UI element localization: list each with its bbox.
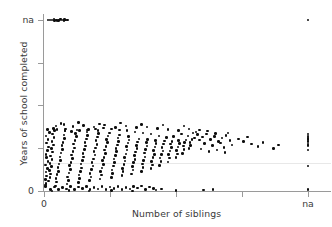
- data-point: [162, 150, 165, 153]
- data-point: [198, 139, 201, 142]
- data-point: [136, 147, 139, 150]
- data-point: [87, 128, 90, 131]
- data-point: [189, 141, 192, 144]
- data-point: [183, 125, 186, 128]
- data-point: [80, 167, 83, 170]
- data-point: [48, 131, 51, 134]
- data-point: [99, 178, 102, 181]
- data-point: [57, 166, 60, 169]
- data-point: [64, 128, 67, 131]
- data-point: [63, 19, 66, 22]
- data-point: [158, 164, 161, 167]
- data-point: [55, 19, 58, 22]
- data-point: [61, 19, 64, 22]
- data-point: [114, 154, 117, 157]
- data-point: [171, 140, 174, 143]
- data-point: [167, 153, 170, 156]
- data-point: [170, 146, 173, 149]
- data-point: [48, 169, 51, 172]
- data-point: [187, 135, 190, 138]
- data-point: [105, 145, 108, 148]
- data-point: [165, 136, 168, 139]
- x-tick-2: [176, 192, 177, 197]
- data-point: [74, 132, 77, 135]
- data-point: [67, 179, 70, 182]
- data-point: [56, 173, 59, 176]
- data-point: [63, 123, 66, 126]
- data-point: [103, 149, 106, 152]
- data-point: [69, 168, 72, 171]
- data-point: [195, 131, 198, 134]
- data-point: [45, 156, 48, 159]
- data-point: [84, 141, 87, 144]
- data-point: [152, 156, 155, 159]
- data-point: [63, 18, 66, 21]
- data-point: [178, 142, 181, 145]
- data-point: [224, 151, 227, 154]
- data-point: [133, 154, 136, 157]
- data-point: [121, 174, 124, 177]
- data-point: [60, 122, 63, 125]
- data-point: [98, 123, 101, 126]
- data-point: [63, 134, 66, 137]
- data-point: [44, 184, 47, 187]
- data-point: [49, 155, 52, 158]
- data-point: [110, 128, 113, 131]
- data-point: [81, 159, 84, 162]
- data-point: [185, 139, 188, 142]
- data-point: [97, 129, 100, 132]
- data-point: [81, 187, 84, 190]
- data-point: [96, 136, 99, 139]
- data-point: [94, 128, 97, 131]
- horizontal-gridline: [44, 163, 331, 164]
- data-point: [46, 167, 49, 170]
- data-point: [144, 156, 147, 159]
- data-point: [198, 129, 201, 132]
- data-point: [181, 152, 184, 155]
- data-point: [150, 133, 153, 136]
- data-point: [225, 134, 228, 137]
- data-point: [277, 144, 280, 147]
- data-point: [105, 138, 108, 141]
- data-point: [146, 126, 149, 129]
- data-point: [127, 142, 130, 145]
- data-point: [200, 148, 203, 151]
- data-point: [183, 141, 186, 144]
- data-point: [84, 145, 87, 148]
- data-point: [217, 140, 220, 143]
- data-point: [124, 160, 127, 163]
- data-point: [74, 139, 77, 142]
- data-point: [72, 143, 75, 146]
- data-point: [146, 145, 149, 148]
- data-point: [246, 136, 249, 139]
- data-point: [71, 157, 74, 160]
- data-point: [97, 188, 100, 191]
- data-point: [72, 150, 75, 153]
- data-point: [128, 139, 131, 142]
- data-point: [77, 186, 80, 189]
- data-point: [77, 181, 80, 184]
- data-point: [53, 129, 56, 132]
- data-point: [155, 142, 158, 145]
- data-point: [168, 157, 171, 160]
- data-point: [55, 181, 58, 184]
- data-point: [169, 143, 172, 146]
- data-point: [50, 165, 53, 168]
- data-point: [64, 129, 67, 132]
- data-point: [152, 149, 155, 152]
- data-point: [134, 131, 137, 134]
- data-point: [75, 135, 78, 138]
- data-point: [78, 174, 81, 177]
- data-point: [134, 151, 137, 154]
- data-point: [103, 124, 106, 127]
- data-point: [68, 164, 71, 167]
- data-point: [132, 185, 135, 188]
- data-point: [231, 144, 234, 147]
- data-point: [89, 172, 92, 175]
- data-point: [113, 187, 116, 190]
- data-point: [93, 126, 96, 129]
- data-point: [117, 185, 120, 188]
- data-point: [62, 141, 65, 144]
- data-point: [82, 152, 85, 155]
- data-point: [119, 122, 122, 125]
